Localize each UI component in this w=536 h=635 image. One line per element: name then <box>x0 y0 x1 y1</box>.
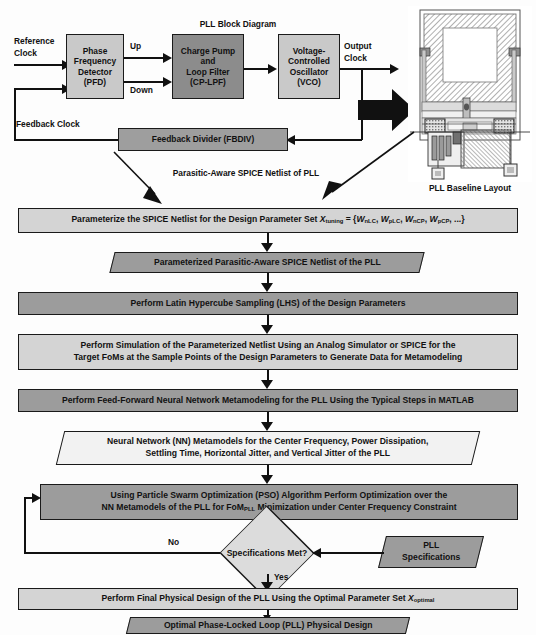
connector-2-arrowhead <box>261 283 273 292</box>
flow-step-final-design: Perform Final Physical Design of the PLL… <box>18 588 518 610</box>
output-clock-label-line2: Clock <box>344 54 367 64</box>
netlist-caption: Parasitic-Aware SPICE Netlist of PLL <box>136 169 356 179</box>
spec-line2: Specifications <box>402 552 460 564</box>
flow-data-optimal-design: Optimal Phase-Locked Loop (PLL) Physical… <box>126 617 410 634</box>
block-pfd-line3: Detector <box>74 67 116 77</box>
up-wire <box>124 57 165 59</box>
block-cp-lpf: Charge Pump and Loop Filter (CP-LPF) <box>172 34 244 99</box>
no-branch-vertical <box>24 497 26 553</box>
connector-1-arrowhead <box>261 243 273 252</box>
flow-step-lhs: Perform Latin Hypercube Sampling (LHS) o… <box>18 292 518 315</box>
feedback-input-wire <box>14 88 64 90</box>
flow-data-nn-metamodels-text: Neural Network (NN) Metamodels for the C… <box>107 436 428 459</box>
block-vco-line2: Controlled <box>288 56 330 66</box>
block-fbdiv: Feedback Divider (FBDIV) <box>118 128 288 151</box>
flow-step-pso: Using Particle Swarm Optimization (PSO) … <box>40 484 518 520</box>
flow-data-parameterized-netlist-text: Parameterized Parasitic-Aware SPICE Netl… <box>154 257 381 269</box>
up-label: Up <box>130 42 141 52</box>
pll-baseline-layout-caption: PLL Baseline Layout <box>405 184 535 194</box>
down-arrowhead <box>163 77 172 87</box>
flow-data-nn-line1: Neural Network (NN) Metamodels for the C… <box>107 436 428 448</box>
block-cp-lpf-line3: Loop Filter <box>181 67 235 77</box>
block-cp-lpf-line1: Charge Pump <box>181 46 235 56</box>
flow-step-final-design-text: Perform Final Physical Design of the PLL… <box>102 593 435 605</box>
up-arrowhead <box>163 53 172 63</box>
flow-data-optimal-design-text: Optimal Phase-Locked Loop (PLL) Physical… <box>164 620 373 632</box>
feedback-vertical-wire <box>14 88 16 141</box>
flow-data-pll-specifications: PLL Specifications <box>378 536 484 568</box>
flow-step-simulation-line1: Perform Simulation of the Parameterized … <box>74 340 463 352</box>
down-wire <box>124 81 165 83</box>
flow-step-simulation-line2: Target FoMs at the Sample Points of the … <box>74 352 463 364</box>
flow-step-lhs-text: Perform Latin Hypercube Sampling (LHS) o… <box>130 298 405 310</box>
no-branch-horizontal <box>24 552 220 554</box>
cplpf-vco-arrowhead <box>268 64 277 74</box>
feedback-clock-label: Feedback Clock <box>16 120 80 130</box>
flow-step-parameterize: Parameterize the SPICE Netlist for the D… <box>18 208 518 233</box>
block-diagram-title: PLL Block Diagram <box>168 20 308 30</box>
spec-to-decision-wire <box>318 552 384 554</box>
layout-to-netlist-arrow <box>310 130 420 206</box>
cplpf-vco-wire <box>244 68 270 70</box>
connector-3-arrowhead <box>261 325 273 334</box>
reference-clock-wire <box>14 64 64 66</box>
no-branch-arrowhead <box>32 493 41 503</box>
no-label: No <box>168 538 179 548</box>
pll-baseline-layout-image <box>408 6 532 182</box>
flow-data-parameterized-netlist: Parameterized Parasitic-Aware SPICE Netl… <box>109 252 424 273</box>
block-pfd-line2: Frequency <box>74 56 116 66</box>
feedback-bottom-wire <box>14 139 118 141</box>
flow-step-pso-line1: Using Particle Swarm Optimization (PSO) … <box>101 490 456 502</box>
block-fbdiv-label: Feedback Divider (FBDIV) <box>152 134 254 144</box>
flow-step-metamodeling: Perform Feed-Forward Neural Network Meta… <box>18 389 518 412</box>
connector-4-arrowhead <box>261 380 273 389</box>
block-vco-line4: (VCO) <box>288 77 330 87</box>
connector-6-arrowhead <box>261 475 273 484</box>
flow-data-pll-specifications-text: PLL Specifications <box>402 540 460 563</box>
pso-line2-b: Minimization under Center Frequency Cons… <box>255 502 457 512</box>
flow-step-parameterize-text: Parameterize the SPICE Netlist for the D… <box>71 214 464 226</box>
connector-5-arrowhead <box>261 422 273 431</box>
decision-label: Specifications Met? <box>219 531 315 575</box>
block-cp-lpf-line2: and <box>181 56 235 66</box>
block-pfd-line1: Phase <box>74 46 116 56</box>
reference-clock-label-line1: Reference <box>14 37 55 47</box>
pso-line2-a: NN Metamodels of the PLL for FoM <box>101 502 244 512</box>
block-pfd: Phase Frequency Detector (PFD) <box>66 34 124 99</box>
reference-clock-label-line2: Clock <box>14 49 37 59</box>
output-clock-label-line1: Output <box>344 42 371 52</box>
figure-root: PLL Block Diagram Reference Clock Phase … <box>0 0 536 635</box>
block-pfd-line4: (PFD) <box>74 77 116 87</box>
flow-step-pso-line2: NN Metamodels of the PLL for FoMPLL Mini… <box>101 502 456 514</box>
block-vco-line3: Oscillator <box>288 67 330 77</box>
flow-data-nn-line2: Settling Time, Horizontal Jitter, and Ve… <box>107 448 428 460</box>
output-clock-wire <box>340 68 392 70</box>
down-label: Down <box>130 86 153 96</box>
block-vco-line1: Voltage- <box>288 46 330 56</box>
flow-step-metamodeling-text: Perform Feed-Forward Neural Network Meta… <box>62 395 474 407</box>
output-clock-arrowhead <box>390 64 399 74</box>
block-vco: Voltage- Controlled Oscillator (VCO) <box>278 34 340 99</box>
flow-step-simulation: Perform Simulation of the Parameterized … <box>18 334 518 370</box>
final-prefix: Perform Final Physical Design of the PLL… <box>102 593 408 603</box>
flow-data-nn-metamodels: Neural Network (NN) Metamodels for the C… <box>56 431 480 465</box>
block-cp-lpf-line4: (CP-LPF) <box>181 77 235 87</box>
parameterize-prefix: Parameterize the SPICE Netlist for the D… <box>71 214 319 224</box>
spec-line1: PLL <box>402 540 460 552</box>
